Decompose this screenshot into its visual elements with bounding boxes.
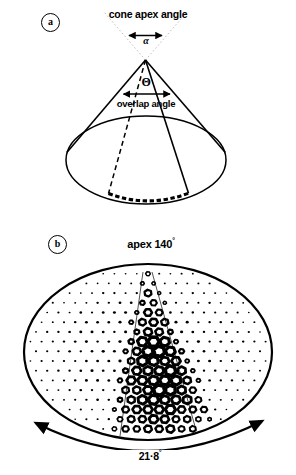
facet-small: [63, 340, 66, 342]
facet-small: [102, 409, 104, 411]
facet-small: [214, 389, 216, 391]
facet-small: [113, 311, 116, 314]
facet-small: [96, 340, 99, 342]
facet-small: [68, 389, 70, 391]
facet-small: [118, 340, 121, 343]
span-value-label: 21·8°: [116, 450, 184, 462]
facet-small: [180, 311, 182, 313]
facet-small: [91, 350, 94, 352]
facet-small: [57, 389, 59, 391]
facet-small: [225, 370, 227, 372]
facet-small: [119, 302, 122, 305]
facet-small: [242, 340, 245, 342]
facet-small: [231, 379, 234, 381]
facet-small: [214, 370, 217, 372]
panel-b-letter: b: [48, 235, 67, 254]
facet-small: [41, 380, 43, 382]
cone-apex-angle-label: cone apex angle: [104, 9, 192, 20]
facet-small: [113, 389, 116, 391]
span-value-text: 21·8: [139, 450, 159, 462]
facet-small: [208, 321, 211, 323]
facet-small: [108, 302, 110, 304]
facet-small: [96, 360, 99, 363]
facet-small: [102, 273, 104, 275]
facet-small: [68, 331, 71, 333]
facet-small: [197, 340, 200, 343]
facet-small: [265, 341, 267, 343]
facet-small: [186, 321, 189, 324]
facet-small: [102, 331, 105, 333]
facet-small: [74, 340, 77, 342]
facet-small: [253, 360, 255, 362]
facet-small: [96, 379, 99, 382]
facet-small: [91, 409, 93, 411]
facet-small: [180, 331, 183, 334]
facet-small: [113, 292, 115, 294]
facet-small: [214, 292, 216, 294]
facet-small: [41, 341, 43, 343]
facet-small: [97, 418, 99, 420]
facet-small: [130, 302, 133, 304]
facet-small: [208, 341, 210, 343]
facet-small: [220, 360, 223, 362]
apex-value-label: apex 140°: [106, 237, 196, 250]
facet-small: [231, 321, 234, 323]
facet-small: [136, 292, 138, 294]
facet-small: [35, 350, 37, 352]
facet-small: [91, 312, 93, 314]
cone-base-ellipse: [66, 116, 226, 204]
facet-small: [30, 360, 32, 362]
facet-small: [186, 340, 189, 342]
facet-small: [85, 302, 87, 304]
facet-small: [35, 331, 37, 333]
facet-small: [225, 389, 227, 391]
facet-small: [74, 379, 77, 381]
facet-small: [107, 379, 110, 382]
facet-small: [203, 350, 206, 352]
facet-small: [85, 418, 87, 420]
overlap-angle-label: overlap angle: [110, 99, 182, 109]
facet-small: [46, 350, 48, 352]
facet-small: [102, 428, 104, 430]
facet-small: [85, 340, 88, 343]
facet-small: [225, 350, 227, 352]
facet-small: [175, 282, 177, 284]
facet-small: [52, 399, 54, 401]
facet-small: [124, 331, 127, 334]
facet-small: [30, 341, 32, 343]
facet-small: [220, 418, 222, 420]
facet-small: [248, 331, 250, 333]
facet-small: [125, 273, 127, 275]
facet-small: [57, 312, 59, 314]
facet-small: [259, 331, 261, 332]
facet-small: [124, 311, 127, 314]
facet-small: [63, 360, 65, 362]
facet-small: [113, 273, 115, 275]
facet-small: [63, 321, 65, 323]
facet-small: [214, 312, 216, 314]
facet-small: [186, 283, 188, 285]
facet-small: [52, 360, 54, 362]
facet-small: [46, 312, 48, 314]
facet-small: [102, 389, 104, 391]
facet-small: [79, 331, 82, 334]
facet-small: [265, 360, 267, 362]
facet-small: [203, 311, 205, 313]
facet-small: [181, 292, 183, 294]
facet-small: [231, 399, 233, 401]
facet-small: [242, 360, 244, 362]
facet-small: [46, 370, 48, 372]
facet-small: [41, 321, 43, 323]
facet-small: [85, 379, 88, 382]
facet-small: [96, 302, 99, 304]
facet-small: [85, 399, 87, 401]
figure-root: a b cone apex angle α Θ overlap angle ap…: [0, 0, 296, 475]
facet-small: [46, 389, 48, 391]
facet-small: [231, 302, 233, 304]
facet-small: [119, 282, 121, 284]
facet-small: [214, 331, 216, 333]
facet-small: [220, 321, 223, 323]
facet-small: [192, 292, 194, 294]
facet-small: [253, 341, 255, 343]
facet-small: [164, 283, 166, 285]
